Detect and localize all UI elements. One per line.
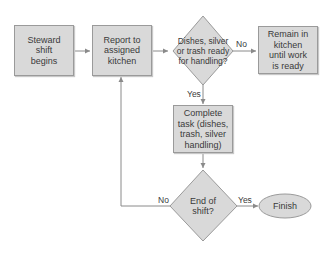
node-label: Complete task (dishes, trash, silver han… [175,108,231,150]
edge-end-report [121,77,170,206]
edge-label-no: No [236,39,247,49]
node-remain-in-kitchen: Remain in kitchen until work is ready [258,26,318,74]
edge-label-yes: Yes [187,89,201,99]
node-label: Dishes, silver or trash ready for handli… [176,36,230,66]
node-label: Remain in kitchen until work is ready [265,29,311,71]
decision-ready-for-handling: Dishes, silver or trash ready for handli… [176,28,230,74]
node-steward-shift-begins: Steward shift begins [14,25,74,76]
node-label: End of shift? [187,196,219,217]
terminal-finish: Finish [260,198,310,214]
flowchart: Steward shift begins Report to assigned … [0,0,334,255]
node-report-to-kitchen: Report to assigned kitchen [92,25,152,76]
decision-end-of-shift: End of shift? [183,193,223,219]
edge-label-yes: Yes [238,195,252,205]
node-complete-task: Complete task (dishes, trash, silver han… [173,105,233,153]
edge-label-no: No [158,195,169,205]
node-label: Steward shift begins [24,35,64,67]
node-label: Finish [273,201,297,212]
node-label: Report to assigned kitchen [98,35,146,67]
